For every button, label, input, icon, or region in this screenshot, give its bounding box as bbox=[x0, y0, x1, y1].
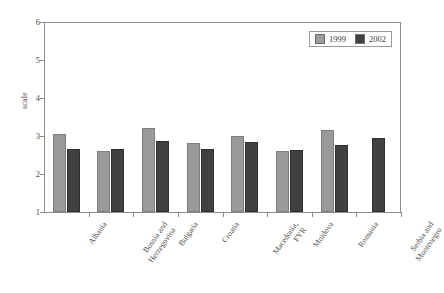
x-tick-mark bbox=[133, 212, 134, 217]
bar-2002 bbox=[201, 149, 214, 212]
bar-2002 bbox=[335, 145, 348, 212]
x-tick-mark bbox=[312, 212, 313, 217]
bar-group bbox=[133, 22, 178, 212]
bar-1999 bbox=[321, 130, 334, 212]
bar-2002 bbox=[156, 141, 169, 212]
plot-area bbox=[44, 22, 401, 212]
y-tick-6: 6 bbox=[14, 18, 40, 27]
legend-item-2002: 2002 bbox=[355, 34, 386, 44]
bar-2002 bbox=[372, 138, 385, 212]
x-tick-mark bbox=[267, 212, 268, 217]
legend-item-1999: 1999 bbox=[315, 34, 346, 44]
legend-swatch-2002 bbox=[355, 34, 365, 44]
x-tick-mark bbox=[89, 212, 90, 217]
legend-label-2002: 2002 bbox=[369, 35, 386, 44]
y-tick-3: 3 bbox=[14, 132, 40, 141]
bar-group bbox=[267, 22, 312, 212]
bar-group bbox=[178, 22, 223, 212]
y-tick-4: 4 bbox=[14, 94, 40, 103]
x-axis-label: Moldova bbox=[312, 220, 337, 249]
bar-1999 bbox=[276, 151, 289, 212]
y-tick-5: 5 bbox=[14, 56, 40, 65]
bar-1999 bbox=[231, 136, 244, 212]
legend-swatch-1999 bbox=[315, 34, 325, 44]
x-axis-label: Bulgaria bbox=[177, 220, 201, 248]
legend: 1999 2002 bbox=[309, 31, 392, 47]
legend-label-1999: 1999 bbox=[329, 35, 346, 44]
y-tick-2: 2 bbox=[14, 170, 40, 179]
bar-group bbox=[44, 22, 89, 212]
x-axis-label: Serbia and Montenegro bbox=[405, 220, 444, 264]
x-axis-label: Croatia bbox=[220, 220, 242, 245]
y-axis-ticks: 6 5 4 3 2 1 bbox=[10, 0, 40, 293]
bar-1999 bbox=[187, 143, 200, 212]
x-tick-mark bbox=[356, 212, 357, 217]
y-tick-1: 1 bbox=[14, 208, 40, 217]
x-tick-mark bbox=[223, 212, 224, 217]
bar-group bbox=[356, 22, 401, 212]
bar-2002 bbox=[67, 149, 80, 212]
bar-2002 bbox=[111, 149, 124, 212]
bar-1999 bbox=[97, 151, 110, 212]
bar-2002 bbox=[245, 142, 258, 212]
x-axis-label: Bosnia and Herzegovina bbox=[138, 220, 178, 265]
bar-1999 bbox=[53, 134, 66, 212]
x-tick-mark bbox=[178, 212, 179, 217]
bar-2002 bbox=[290, 150, 303, 212]
x-tick-mark bbox=[401, 212, 402, 217]
x-axis-label: Albania bbox=[87, 220, 110, 246]
bar-group bbox=[312, 22, 357, 212]
bar-group bbox=[89, 22, 134, 212]
bar-group bbox=[223, 22, 268, 212]
bar-1999 bbox=[142, 128, 155, 212]
x-axis-label: Macedonia, FYR bbox=[271, 220, 309, 262]
x-axis-label: Romania bbox=[356, 220, 381, 249]
